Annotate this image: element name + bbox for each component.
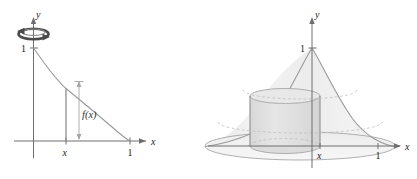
textbook-figure-svg: x y 1 x 1 f(x) [0, 0, 417, 179]
right-y-axis-label: y [314, 9, 320, 20]
left-x-tick-label-x: x [62, 147, 68, 158]
left-panel: x y 1 x 1 f(x) [14, 9, 156, 158]
left-x-axis-label: x [150, 136, 156, 147]
right-x-tick-label-x: x [316, 150, 322, 161]
left-x-tick-label-1: 1 [128, 147, 133, 158]
left-curve-fx [34, 48, 131, 141]
right-x-tick-label-1: 1 [376, 150, 381, 161]
figure-root: x y 1 x 1 f(x) [0, 0, 417, 179]
right-y-tick-label-1: 1 [300, 43, 305, 54]
left-y-tick-label-1: 1 [21, 43, 26, 54]
right-panel: x y 1 x 1 [205, 9, 410, 168]
right-x-axis-label: x [404, 141, 410, 152]
left-y-axis-label: y [35, 9, 41, 20]
cylindrical-shell [250, 89, 320, 154]
left-fx-label: f(x) [82, 109, 97, 121]
